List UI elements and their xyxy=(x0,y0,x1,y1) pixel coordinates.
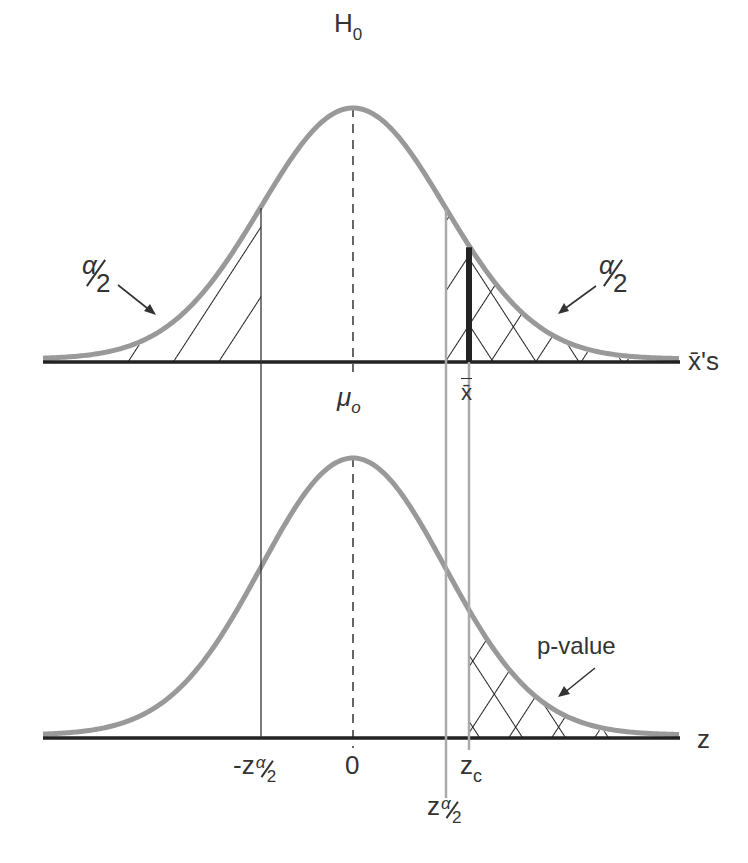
bottom-panel xyxy=(0,0,748,863)
xbar-axis-label: x̄'s xyxy=(688,348,719,374)
h0-label: H0 xyxy=(334,10,362,36)
hypothesis-test-diagram: H0 α2 α2 x̄'s μo x̄ p-value z -zα2 0 zc … xyxy=(0,0,748,863)
p-value-label: p-value xyxy=(537,634,616,658)
xbar-label: x̄ xyxy=(461,382,472,404)
right-alpha-arrow xyxy=(563,286,596,310)
neg-z-alpha-half-label: -zα2 xyxy=(233,752,279,784)
arrowhead-icon xyxy=(558,686,570,697)
diagram-canvas xyxy=(0,0,748,863)
right-alpha-half-label: α2 xyxy=(597,252,631,297)
p-value-arrow xyxy=(564,668,595,693)
z-alpha-half-label: zα2 xyxy=(427,793,464,825)
zero-label: 0 xyxy=(345,752,359,778)
arrowhead-icon xyxy=(144,304,156,315)
standard-normal-curve xyxy=(43,458,679,734)
left-alpha-half-label: α2 xyxy=(80,252,114,297)
zc-label: zc xyxy=(460,752,482,778)
h0-sampling-distribution-curve xyxy=(43,108,679,359)
arrowhead-icon xyxy=(558,303,569,314)
z-axis-label: z xyxy=(697,726,710,752)
mu0-label: μo xyxy=(337,384,361,410)
